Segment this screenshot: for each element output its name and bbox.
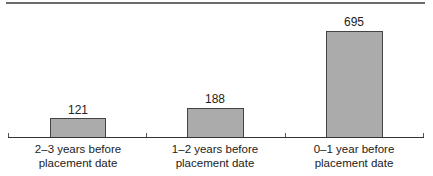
category-label-line: 0–1 year before [289, 142, 419, 156]
category-label-line: placement date [150, 156, 280, 170]
category-label-line: 1–2 years before [150, 142, 280, 156]
bar-value-label: 188 [175, 92, 255, 106]
bar-2-3-years [50, 118, 106, 138]
category-label-line: 2–3 years before [13, 142, 143, 156]
bar-value-label: 121 [38, 103, 118, 117]
bar-value-label: 695 [314, 15, 394, 29]
bar-1-2-years [187, 108, 244, 138]
x-axis [8, 137, 424, 138]
category-label-line: placement date [289, 156, 419, 170]
top-rule [6, 2, 425, 4]
category-label-line: placement date [13, 156, 143, 170]
category-label: 1–2 years before placement date [150, 142, 280, 170]
category-label: 2–3 years before placement date [13, 142, 143, 170]
category-label: 0–1 year before placement date [289, 142, 419, 170]
bar-0-1-year [326, 31, 383, 138]
